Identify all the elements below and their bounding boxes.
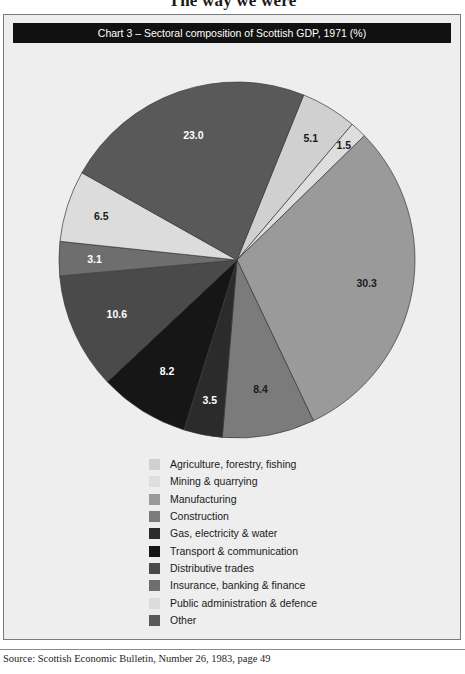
legend-item-label: Manufacturing [170, 494, 237, 505]
pie-chart: 5.11.530.38.43.58.210.63.16.523.0 [4, 49, 460, 449]
pie-slice-value-label: 30.3 [356, 277, 377, 289]
pie-slice-value-label: 1.5 [337, 139, 352, 151]
chart-legend: Agriculture, forestry, fishingMining & q… [149, 456, 449, 629]
legend-color-swatch [149, 511, 160, 522]
legend-item: Agriculture, forestry, fishing [149, 456, 449, 473]
legend-item: Construction [149, 508, 449, 525]
pie-slice-group [59, 82, 415, 438]
page-title: The way we were [0, 0, 465, 11]
legend-item-label: Agriculture, forestry, fishing [170, 459, 296, 470]
pie-slice-value-label: 23.0 [183, 129, 204, 141]
legend-color-swatch [149, 580, 160, 591]
legend-color-swatch [149, 476, 160, 487]
pie-chart-svg: 5.11.530.38.43.58.210.63.16.523.0 [4, 49, 460, 449]
source-note: Source: Scottish Economic Bulletin, Numb… [3, 653, 270, 664]
legend-item: Insurance, banking & finance [149, 577, 449, 594]
legend-item: Other [149, 612, 449, 629]
pie-slice-value-label: 10.6 [107, 308, 128, 320]
chart-title-bar: Chart 3 – Sectoral composition of Scotti… [13, 23, 451, 43]
pie-slice-value-label: 6.5 [94, 210, 109, 222]
legend-color-swatch [149, 459, 160, 470]
legend-item: Manufacturing [149, 491, 449, 508]
legend-item: Mining & quarrying [149, 473, 449, 490]
legend-item: Transport & communication [149, 542, 449, 559]
legend-color-swatch [149, 494, 160, 505]
legend-item: Distributive trades [149, 560, 449, 577]
legend-color-swatch [149, 546, 160, 557]
pie-slice-value-label: 3.1 [87, 253, 102, 265]
legend-color-swatch [149, 615, 160, 626]
legend-item-label: Distributive trades [170, 563, 254, 574]
legend-item-label: Other [170, 615, 196, 626]
chart-panel: Chart 3 – Sectoral composition of Scotti… [3, 14, 461, 640]
legend-item-label: Gas, electricity & water [170, 528, 277, 539]
legend-item-label: Public administration & defence [170, 598, 317, 609]
legend-color-swatch [149, 598, 160, 609]
source-divider [0, 649, 465, 650]
legend-item: Public administration & defence [149, 594, 449, 611]
legend-item-label: Transport & communication [170, 546, 298, 557]
pie-slice-value-label: 8.4 [253, 383, 268, 395]
page-root: The way we were Chart 3 – Sectoral compo… [0, 0, 465, 674]
legend-item-label: Insurance, banking & finance [170, 580, 305, 591]
legend-item: Gas, electricity & water [149, 525, 449, 542]
legend-item-label: Construction [170, 511, 229, 522]
legend-item-label: Mining & quarrying [170, 476, 258, 487]
pie-slice-value-label: 3.5 [202, 394, 217, 406]
pie-slice-value-label: 8.2 [160, 365, 175, 377]
legend-color-swatch [149, 563, 160, 574]
pie-slice-value-label: 5.1 [303, 132, 318, 144]
legend-color-swatch [149, 528, 160, 539]
